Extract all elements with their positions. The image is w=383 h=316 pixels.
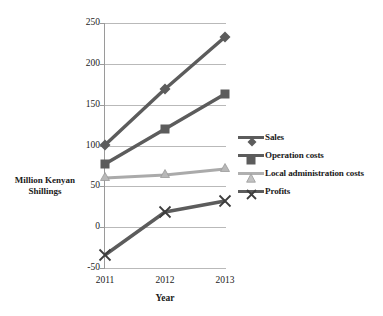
legend-label-local-administration-costs: Local administration costs [265,168,364,178]
y-axis-line [104,23,105,269]
y-tick-label-250: 250 [58,18,100,28]
legend-label-profits: Profits [265,186,290,196]
y-tick-label-neg50: -50 [58,263,100,273]
y-axis-tick-100 [100,146,104,147]
x-marker-icon [246,186,257,204]
legend-label-sales: Sales [265,132,284,142]
y-axis-title: Million Kenyan Shillings [6,175,84,197]
x-axis-title: Year [104,293,226,303]
gridline-200 [104,64,226,65]
gridline-150 [104,105,226,106]
legend-swatch-sales [238,131,264,143]
chart-legend: Sales Operation costs Local administrati… [238,128,383,200]
gridline-0 [104,227,226,228]
y-axis-title-line1: Million Kenyan [6,175,84,186]
y-axis-tick-250 [100,23,104,24]
y-axis-title-line2: Shillings [6,186,84,197]
legend-item-operation-costs[interactable]: Operation costs [238,146,383,164]
legend-item-local-administration-costs[interactable]: Local administration costs [238,164,383,182]
plot-area [104,23,226,268]
y-axis-tick-50 [100,186,104,187]
y-tick-label-150: 150 [58,100,100,110]
legend-label-operation-costs: Operation costs [265,150,324,160]
gridline-50 [104,186,226,187]
gridline-100 [104,146,226,147]
x-tick-label-2012: 2012 [143,275,187,285]
y-axis-tick-neg50 [100,268,104,269]
y-axis-tick-150 [100,105,104,106]
y-axis-tick-200 [100,64,104,65]
legend-item-profits[interactable]: Profits [238,182,383,200]
x-tick-label-2011: 2011 [83,275,127,285]
x-tick-label-2013: 2013 [203,275,247,285]
y-tick-label-0: 0 [58,222,100,232]
line-chart: 250 200 150 100 50 0 -50 Million Kenyan … [0,0,383,316]
y-tick-label-100: 100 [58,141,100,151]
gridline-250 [104,23,226,24]
legend-swatch-local-administration-costs [238,167,264,179]
y-tick-label-200: 200 [58,59,100,69]
legend-swatch-operation-costs [238,149,264,161]
gridline-neg50 [104,268,226,269]
legend-swatch-profits [238,185,264,197]
legend-item-sales[interactable]: Sales [238,128,383,146]
y-axis-tick-0 [100,227,104,228]
